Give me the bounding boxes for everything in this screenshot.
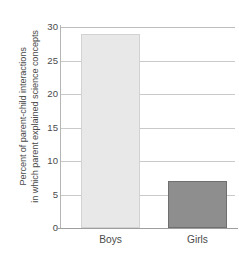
y-tick-label-15: 15 [38,123,58,133]
y-tick-label-5: 5 [38,190,58,200]
gridline-30 [61,27,235,28]
y-axis-title-line-1: Percent of parent-child interactions [17,30,29,203]
bar-chart: Percent of parent-child interactions in … [0,0,239,261]
bar-boys [81,34,140,228]
x-axis-line [56,228,238,229]
plot-area [61,27,235,228]
y-axis-tick-labels: 051015202530 [38,0,58,261]
y-tick-label-20: 20 [38,89,58,99]
y-tick-label-30: 30 [38,22,58,32]
bar-girls [168,181,227,228]
x-axis-tick-labels: BoysGirls [61,233,235,253]
y-axis-line [60,25,61,229]
y-tick-label-10: 10 [38,156,58,166]
y-tick-label-0: 0 [38,223,58,233]
y-tick-label-25: 25 [38,56,58,66]
x-tick-label-girls: Girls [154,233,239,246]
x-tick-label-boys: Boys [67,233,154,246]
